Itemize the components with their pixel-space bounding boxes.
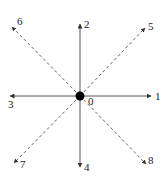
direction-label-2: 2: [84, 18, 90, 30]
direction-label-3: 3: [8, 98, 14, 110]
center-point: [76, 92, 85, 101]
direction-arrow-7: [14, 96, 80, 163]
direction-label-5: 5: [148, 20, 154, 32]
direction-label-7: 7: [20, 158, 26, 170]
direction-arrow-5: [80, 28, 145, 96]
direction-labels: 12345678: [8, 15, 161, 173]
center-label: 0: [88, 95, 94, 107]
direction-arrow-6: [12, 27, 80, 96]
direction-label-6: 6: [17, 15, 23, 27]
direction-diagram: 0 12345678: [0, 0, 163, 180]
direction-label-4: 4: [84, 161, 90, 173]
direction-label-8: 8: [148, 154, 154, 166]
direction-label-1: 1: [155, 90, 161, 102]
